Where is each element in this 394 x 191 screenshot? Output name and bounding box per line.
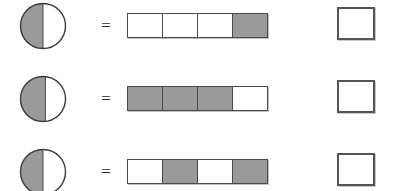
bar-cell — [127, 86, 163, 111]
half-shaded-circle-icon — [19, 148, 67, 191]
bar-cell — [197, 159, 233, 184]
bar-cell — [162, 86, 198, 111]
half-shaded-circle-icon — [19, 75, 67, 123]
bar-cell — [197, 13, 233, 38]
fraction-worksheet: = = — [0, 0, 394, 191]
bar-cell — [162, 13, 198, 38]
worksheet-row: = — [0, 146, 394, 191]
bar-cell — [232, 159, 268, 184]
half-shaded-circle-icon — [19, 2, 67, 50]
answer-box[interactable] — [337, 7, 375, 40]
circle-fraction-model — [19, 75, 67, 123]
bar-cell — [232, 86, 268, 111]
worksheet-row: = — [0, 0, 394, 73]
bar-fraction-model — [127, 86, 268, 111]
circle-fraction-model — [19, 148, 67, 191]
circle-fraction-model — [19, 2, 67, 50]
bar-cell — [162, 159, 198, 184]
equals-sign: = — [96, 160, 116, 184]
equals-sign: = — [96, 14, 116, 38]
equals-sign: = — [96, 87, 116, 111]
bar-cell — [197, 86, 233, 111]
answer-box[interactable] — [337, 153, 375, 186]
bar-cell — [232, 13, 268, 38]
bar-fraction-model — [127, 13, 268, 38]
bar-cell — [127, 13, 163, 38]
worksheet-row: = — [0, 73, 394, 146]
bar-fraction-model — [127, 159, 268, 184]
bar-cell — [127, 159, 163, 184]
answer-box[interactable] — [337, 80, 375, 113]
